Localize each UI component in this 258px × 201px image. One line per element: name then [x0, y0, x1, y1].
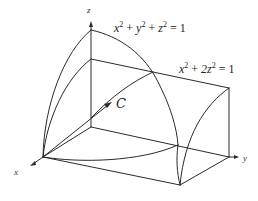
eq1-plus-2: + — [148, 21, 155, 35]
eq1-exp-3: 2 — [163, 20, 167, 29]
eq2-exp-2: 2 — [212, 61, 216, 70]
eq1-exp-2: 2 — [141, 20, 145, 29]
back-bottom-edge — [91, 127, 229, 157]
eq2-rhs: = 1 — [219, 62, 235, 76]
sphere-xy-arc — [43, 145, 178, 160]
curve-c-arrow-line — [43, 105, 108, 157]
x-axis-label: x — [14, 168, 18, 177]
eq1-rhs: = 1 — [170, 21, 186, 35]
intersection-curve-front — [177, 145, 180, 185]
eq1-exp-1: 2 — [119, 20, 123, 29]
sphere-yz-arc — [91, 30, 178, 145]
x-axis-arrowhead — [30, 161, 36, 166]
y-axis-label: y — [243, 154, 247, 163]
eq1-plus-1: + — [126, 21, 133, 35]
eq2-term-2z: 2z — [201, 62, 212, 76]
bottom-front-edge — [43, 157, 180, 185]
eq2-exp-1: 2 — [184, 61, 188, 70]
z-axis-label: z — [87, 6, 91, 15]
y-axis-arrowhead — [234, 155, 239, 159]
z-axis-arrowhead — [89, 21, 93, 27]
origin-to-z-base — [43, 127, 91, 157]
bottom-right-edge — [180, 157, 229, 185]
sphere-equation-label: x2 + y2 + z2 = 1 — [114, 22, 186, 34]
curve-c-label: C — [116, 97, 126, 110]
eq2-plus: + — [191, 62, 198, 76]
cylinder-equation-label: x2 + 2z2 = 1 — [179, 63, 235, 75]
